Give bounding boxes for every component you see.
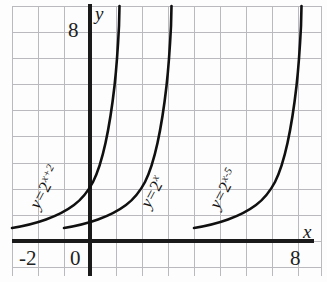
- grid-lines: [12, 6, 321, 276]
- x-tick-label-8: 8: [290, 248, 301, 269]
- x-tick-label-0: 0: [70, 248, 81, 269]
- y-axis-label: y: [95, 4, 103, 23]
- x-tick-label-minus-2: -2: [19, 248, 37, 269]
- plot-area: [0, 0, 327, 282]
- exponential-graph-figure: y x 8 -2 0 8 y=2x+2 y=2x y=2x-5: [0, 0, 327, 282]
- axis-lines: [12, 4, 314, 276]
- x-axis-label: x: [303, 222, 311, 241]
- y-tick-label-8: 8: [68, 20, 79, 41]
- curve-y-equals-2-pow-x-plus-2: [12, 6, 120, 228]
